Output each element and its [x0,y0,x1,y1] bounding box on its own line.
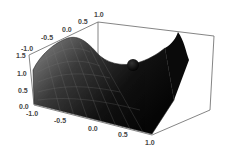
svg-text:-1.0: -1.0 [21,45,33,52]
svg-text:1.0: 1.0 [94,11,104,18]
svg-text:0.0: 0.0 [19,103,29,110]
ball [127,59,139,71]
svg-text:0.0: 0.0 [88,125,98,132]
svg-text:1.5: 1.5 [16,52,26,59]
surface-plot: -1.0 -0.5 0.0 0.5 1.0 1.5 1.0 0.5 0.0 -1… [0,0,230,155]
svg-text:1.0: 1.0 [145,139,155,146]
svg-text:1.0: 1.0 [17,70,27,77]
svg-text:-0.5: -0.5 [54,117,66,124]
z-axis-ticks: 1.5 1.0 0.5 0.0 [16,52,29,110]
svg-text:0.5: 0.5 [78,18,88,25]
svg-text:0.5: 0.5 [18,87,28,94]
svg-text:-1.0: -1.0 [26,110,38,117]
svg-text:-0.5: -0.5 [41,34,53,41]
svg-text:0.0: 0.0 [62,26,72,33]
svg-text:0.5: 0.5 [118,131,128,138]
